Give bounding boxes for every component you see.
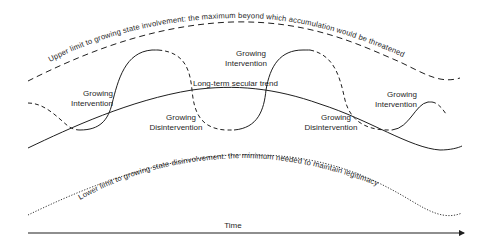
phase-label-growing-intervention-1: Growing Intervention [71, 89, 113, 108]
phase-label-growing-disintervention-1: Growing Disintervention [150, 113, 203, 132]
lower-limit-curve [28, 155, 462, 216]
phase-label-growing-intervention-3: Growing Intervention [375, 90, 417, 109]
svg-text:Intervention: Intervention [71, 99, 113, 108]
phase-label-growing-disintervention-2: Growing Disintervention [305, 113, 358, 132]
svg-text:Growing: Growing [387, 90, 417, 99]
svg-text:Growing: Growing [321, 113, 351, 122]
phase-label-growing-intervention-2: Growing Intervention [225, 49, 267, 68]
svg-text:Disintervention: Disintervention [150, 123, 203, 132]
lower-limit-label: Lower limit to growing state disinvolvem… [77, 151, 380, 202]
upper-limit-label: Upper limit to growing state involvement… [47, 11, 406, 64]
svg-text:Growing: Growing [166, 113, 196, 122]
svg-text:Intervention: Intervention [225, 59, 267, 68]
svg-text:Growing: Growing [236, 49, 266, 58]
svg-text:Growing: Growing [83, 89, 113, 98]
state-intervention-cycle-diagram: Upper limit to growing state involvement… [0, 0, 487, 247]
cycle-segment-disintervention-3 [432, 102, 446, 114]
time-axis-label: Time [224, 221, 242, 230]
secular-trend-label: Long-term secular trend [193, 79, 278, 88]
svg-text:Disintervention: Disintervention [305, 123, 358, 132]
svg-text:Intervention: Intervention [375, 100, 417, 109]
